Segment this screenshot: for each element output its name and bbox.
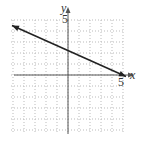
y-tick-label-5: 5 [62, 13, 68, 25]
x-axis-label: x [130, 69, 135, 81]
line-arrow-left-icon [12, 26, 20, 31]
data-line [12, 26, 126, 77]
coordinate-plane [0, 0, 141, 142]
x-tick-label-5: 5 [118, 76, 124, 88]
